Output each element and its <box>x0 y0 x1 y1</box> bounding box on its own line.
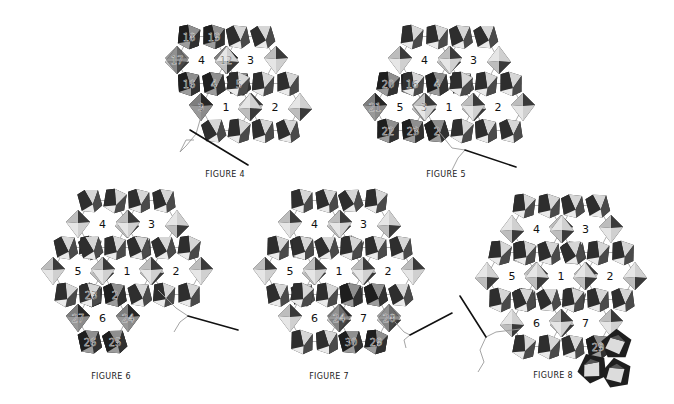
bead-step-number: 20 <box>382 79 395 90</box>
bead-step-number: 19 <box>208 32 221 43</box>
needle-icon <box>410 313 452 335</box>
cube-bead <box>77 187 104 215</box>
bead-step-number: 16 <box>406 79 419 90</box>
cube-bead <box>252 119 274 143</box>
bead-step-number: 18 <box>183 32 196 43</box>
cube-bead <box>611 240 635 266</box>
diamond-bead <box>351 257 375 285</box>
cube-bead <box>399 23 425 50</box>
cube-bead <box>449 117 476 145</box>
diamond-bead <box>511 93 535 121</box>
cube-bead <box>225 24 250 51</box>
cell-number-label: 4 <box>421 54 428 67</box>
bead-layer <box>41 23 647 389</box>
cube-bead <box>226 117 252 145</box>
cell-number-label: 6 <box>311 312 318 325</box>
cell-number-label: 3 <box>148 218 155 231</box>
bead-step-number: 12 <box>220 55 233 66</box>
diamond-bead <box>278 304 302 332</box>
cube-bead <box>499 71 523 96</box>
cell-number-label: 2 <box>607 270 614 283</box>
cube-bead <box>585 192 611 220</box>
cell-number-label: 2 <box>272 101 279 114</box>
diamond-bead <box>238 93 262 121</box>
cell-number-label: 1 <box>124 265 131 278</box>
diamond-bead <box>623 262 647 290</box>
cell-number-label: 4 <box>198 54 205 67</box>
cell-number-label: 5 <box>397 101 404 114</box>
diamond-bead <box>401 257 425 285</box>
diamond-bead <box>303 257 327 285</box>
cell-number-label: 1 <box>446 101 453 114</box>
diamond-bead <box>487 46 511 74</box>
diamond-bead <box>573 262 597 290</box>
cube-bead <box>276 71 299 96</box>
cell-number-label: 3 <box>360 218 367 231</box>
bead-step-number: 26 <box>84 337 97 348</box>
diamond-bead <box>599 215 623 243</box>
cell-number-label: 2 <box>173 265 180 278</box>
cell-number-label: 5 <box>509 270 516 283</box>
diamond-bead <box>116 210 140 238</box>
cell-number-label: 4 <box>533 223 540 236</box>
cube-bead <box>561 193 585 219</box>
cube-bead <box>127 281 153 308</box>
thread <box>180 120 200 152</box>
cube-bead <box>363 187 389 214</box>
diamond-bead <box>461 93 485 121</box>
cube-bead <box>53 234 78 261</box>
cube-bead <box>314 281 339 308</box>
diamond-bead <box>253 257 277 285</box>
cube-bead <box>486 239 513 268</box>
cube-bead <box>585 239 611 266</box>
diamond-bead <box>377 210 401 238</box>
cell-number-label: 5 <box>75 265 82 278</box>
cell-number-label: 3 <box>247 54 254 67</box>
cell-number-label: 4 <box>311 218 318 231</box>
cube-bead <box>587 288 609 312</box>
diamond-bead <box>549 309 573 337</box>
cube-bead <box>200 117 227 146</box>
cell-number-label: 2 <box>495 101 502 114</box>
bead-step-number: 5 <box>236 79 242 90</box>
cube-bead <box>250 71 275 98</box>
cube-bead <box>176 234 203 262</box>
diamond-bead <box>500 309 524 337</box>
cube-bead <box>512 287 537 314</box>
cube-bead <box>561 334 584 359</box>
cube-bead <box>250 23 277 51</box>
cube-bead <box>537 240 560 265</box>
bead-step-number: 3 <box>198 102 204 113</box>
cell-number-label: 5 <box>287 265 294 278</box>
cube-bead <box>449 24 474 51</box>
cube-bead <box>292 236 314 260</box>
diamond-bead <box>264 46 288 74</box>
needle-layer <box>158 120 520 372</box>
figure-fig8 <box>475 192 647 389</box>
bead-step-number: 30 <box>345 337 358 348</box>
bead-step-number: 16 <box>183 79 196 90</box>
cube-bead <box>102 187 129 215</box>
bead-step-number: 3 <box>421 102 427 113</box>
cube-bead <box>290 329 314 355</box>
cube-bead <box>316 330 338 354</box>
bead-step-number: 22 <box>382 126 395 137</box>
cell-number-label: 2 <box>385 265 392 278</box>
needle-icon <box>460 296 486 337</box>
bead-step-number: 23 <box>85 290 98 301</box>
bead-step-number: 24 <box>333 313 346 324</box>
bead-step-number: 17 <box>171 55 184 66</box>
cube-bead <box>53 281 80 309</box>
cube-bead <box>536 286 563 314</box>
highlighted-bead <box>363 282 388 309</box>
bead-step-number: 25 <box>109 337 122 348</box>
diamond-bead <box>91 257 115 285</box>
cell-number-label: 7 <box>582 317 589 330</box>
diamond-bead <box>388 46 412 74</box>
bead-step-number: 29 <box>592 342 605 353</box>
needle-icon <box>465 150 516 167</box>
figure-caption: FIGURE 6 <box>91 372 131 381</box>
cell-number-label: 7 <box>360 312 367 325</box>
cell-number-label: 1 <box>336 265 343 278</box>
cell-number-label: 4 <box>99 218 106 231</box>
